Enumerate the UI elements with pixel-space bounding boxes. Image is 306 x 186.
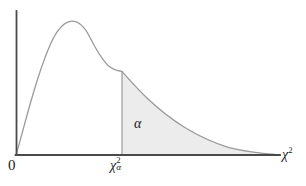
critical-value-label: χ2α — [110, 159, 116, 173]
x-axis-superscript: 2 — [288, 145, 292, 155]
origin-label: 0 — [8, 158, 16, 173]
alpha-tail-shaded-region — [122, 72, 276, 156]
chi-square-distribution-figure — [0, 0, 306, 186]
alpha-area-label: α — [134, 117, 141, 131]
critical-value-symbol: χ2α — [110, 159, 116, 173]
critical-value-subscript: α — [116, 163, 121, 172]
x-axis-label: χ2 — [282, 146, 293, 162]
